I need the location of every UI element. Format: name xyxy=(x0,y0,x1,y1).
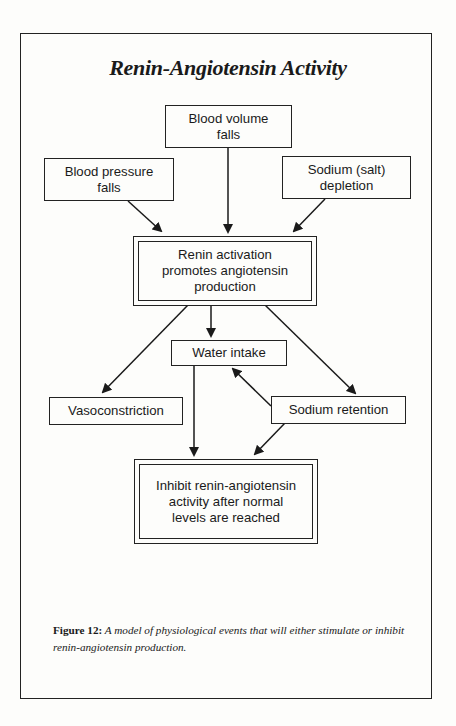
node-label: Renin activation promotes angiotensin pr… xyxy=(162,247,288,295)
node-inhibit: Inhibit renin-angiotensin activity after… xyxy=(134,459,318,544)
node-sodium-retention: Sodium retention xyxy=(271,396,406,424)
node-blood-volume: Blood volume falls xyxy=(165,105,292,148)
caption-label: Figure 12: xyxy=(53,624,102,636)
node-label: Sodium (salt) depletion xyxy=(308,162,386,194)
figure-caption: Figure 12: A model of physiological even… xyxy=(53,622,413,656)
arrow-sodium-ret-to-inhibit xyxy=(255,423,285,454)
caption-text: A model of physiological events that wil… xyxy=(53,624,404,653)
node-label: Blood pressure falls xyxy=(65,164,154,196)
node-blood-pressure: Blood pressure falls xyxy=(44,158,174,201)
node-sodium-depletion: Sodium (salt) depletion xyxy=(282,156,411,199)
node-label: Sodium retention xyxy=(289,402,389,418)
arrow-sodium-to-renin xyxy=(294,199,325,231)
node-label: Blood volume falls xyxy=(189,111,269,143)
arrow-sodium-ret-to-water xyxy=(233,369,271,406)
node-label: Inhibit renin-angiotensin activity after… xyxy=(156,478,296,526)
node-label: Vasoconstriction xyxy=(68,403,164,419)
node-water-intake: Water intake xyxy=(171,340,287,366)
arrow-pressure-to-renin xyxy=(128,201,161,231)
node-vasoconstriction: Vasoconstriction xyxy=(49,397,183,425)
node-label: Water intake xyxy=(192,345,266,361)
node-renin-activation: Renin activation promotes angiotensin pr… xyxy=(133,236,317,306)
